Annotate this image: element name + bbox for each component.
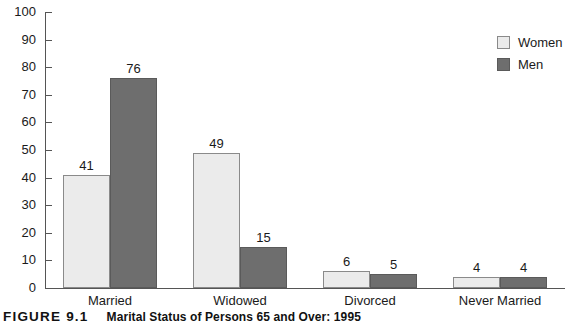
y-axis-tick-label: 10 — [2, 252, 36, 268]
legend-item-men: Men — [497, 55, 563, 74]
bar-married-women: 41 — [63, 175, 110, 288]
bar-value-label: 15 — [256, 230, 270, 245]
x-axis-line — [45, 288, 565, 289]
chart-plot-area: 0102030405060708090100 417649156544 Marr… — [45, 12, 565, 289]
y-axis-tick-label: 70 — [2, 87, 36, 103]
y-axis-tick: 20 — [45, 233, 52, 234]
caption-figure-number: FIGURE 9.1 — [3, 309, 89, 324]
chart-legend: Women Men — [497, 33, 563, 77]
bar-never-married-women: 4 — [453, 277, 500, 288]
figure-container: 0102030405060708090100 417649156544 Marr… — [0, 0, 577, 327]
y-axis-tick-label: 50 — [2, 142, 36, 158]
category-label-widowed: Widowed — [213, 293, 266, 309]
y-axis-tick: 90 — [45, 40, 52, 41]
y-axis-tick-label: 100 — [2, 4, 36, 20]
legend-swatch-men-icon — [497, 58, 510, 71]
bar-divorced-women: 6 — [323, 271, 370, 288]
y-axis-tick-label: 40 — [2, 170, 36, 186]
y-axis-tick: 60 — [45, 122, 52, 123]
category-label-never-married: Never Married — [459, 293, 541, 309]
bar-value-label: 4 — [520, 260, 527, 275]
bar-widowed-men: 15 — [240, 247, 287, 288]
category-label-divorced: Divorced — [344, 293, 395, 309]
legend-swatch-women-icon — [497, 36, 510, 49]
y-axis-tick-label: 0 — [2, 280, 36, 296]
category-label-married: Married — [88, 293, 132, 309]
y-axis-tick: 40 — [45, 178, 52, 179]
y-axis-tick: 70 — [45, 95, 52, 96]
y-axis-tick-label: 80 — [2, 59, 36, 75]
y-axis-tick-label: 30 — [2, 197, 36, 213]
bar-married-men: 76 — [110, 78, 157, 288]
bar-value-label: 4 — [473, 260, 480, 275]
bar-value-label: 49 — [209, 136, 223, 151]
legend-item-women: Women — [497, 33, 563, 52]
figure-caption: FIGURE 9.1 Marital Status of Persons 65 … — [3, 309, 361, 324]
bar-value-label: 6 — [343, 254, 350, 269]
y-axis-tick: 100 — [45, 12, 52, 13]
bar-widowed-women: 49 — [193, 153, 240, 288]
y-axis-tick: 50 — [45, 150, 52, 151]
y-axis-tick-label: 20 — [2, 225, 36, 241]
y-axis-tick: 10 — [45, 260, 52, 261]
legend-label-men: Men — [518, 57, 543, 72]
legend-label-women: Women — [518, 35, 563, 50]
y-axis-tick-label: 60 — [2, 114, 36, 130]
bar-value-label: 41 — [79, 158, 93, 173]
y-axis-tick: 30 — [45, 205, 52, 206]
y-axis-tick: 80 — [45, 67, 52, 68]
bar-divorced-men: 5 — [370, 274, 417, 288]
y-axis-tick: 0 — [45, 288, 52, 289]
y-axis-tick-label: 90 — [2, 32, 36, 48]
bar-never-married-men: 4 — [500, 277, 547, 288]
bar-value-label: 76 — [126, 61, 140, 76]
bar-value-label: 5 — [390, 257, 397, 272]
caption-title: Marital Status of Persons 65 and Over: 1… — [107, 310, 361, 324]
